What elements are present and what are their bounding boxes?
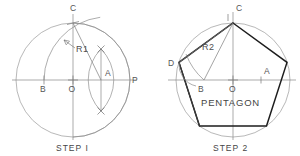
diagram-canvas: C B O A P R1 STEP I: [0, 0, 300, 156]
step2-label-b: B: [198, 84, 204, 94]
step2-label-o: O: [229, 84, 236, 94]
step1-label-r1: R1: [76, 44, 89, 54]
step2-arc-r2-small: [179, 62, 196, 86]
step1-label-b: B: [40, 84, 46, 94]
step2-arc-r2: [186, 54, 204, 80]
step1-label-p: P: [132, 75, 138, 85]
step2-label-c: C: [236, 3, 243, 13]
step2-label-d: D: [168, 58, 175, 68]
step1-label-a: A: [105, 68, 111, 78]
pentagon-name-label: PENTAGON: [201, 97, 260, 108]
step1-caption: STEP I: [56, 143, 89, 153]
step2-label-a: A: [264, 66, 270, 76]
geometric-construction-figure: C B O A P R1 STEP I: [0, 0, 300, 156]
step2-group: C D B O A R2 PENTAGON STEP 2: [168, 3, 296, 153]
step2-caption: STEP 2: [213, 143, 248, 153]
step1-label-c: C: [70, 3, 77, 13]
step1-label-o: O: [69, 84, 76, 94]
step1-group: C B O A P R1 STEP I: [12, 3, 138, 153]
step2-label-r2: R2: [202, 42, 215, 52]
